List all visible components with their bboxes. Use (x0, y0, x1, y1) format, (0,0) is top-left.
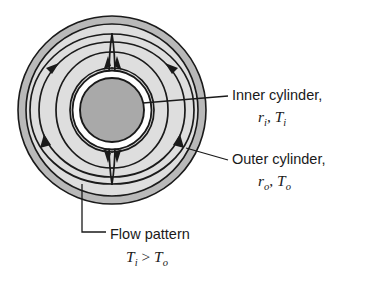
symbols-inner-cylinder: ri, Ti (258, 108, 286, 128)
inner-symbol-separator: , (267, 108, 275, 125)
condition-right-symbol: T (154, 248, 163, 265)
outer-temp-symbol: T (277, 172, 286, 189)
symbols-flow-condition: Ti > To (126, 248, 168, 268)
inner-cylinder (80, 78, 144, 142)
symbols-outer-cylinder: ro, To (258, 172, 291, 192)
outer-temp-subscript: o (286, 181, 291, 192)
label-inner-cylinder: Inner cylinder, (232, 88, 322, 103)
condition-relation: > (138, 248, 155, 265)
label-flow-pattern: Flow pattern (110, 227, 190, 242)
label-outer-cylinder: Outer cylinder, (232, 152, 326, 167)
outer-symbol-separator: , (269, 172, 277, 189)
condition-right-subscript: o (163, 257, 168, 268)
inner-temp-subscript: i (283, 117, 286, 128)
condition-left-symbol: T (126, 248, 135, 265)
